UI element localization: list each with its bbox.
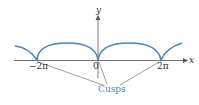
cycloid-diagram: x y −2π 0 2π Cusps <box>0 0 199 105</box>
cusps-label: Cusps <box>98 84 126 94</box>
x-axis-label: x <box>189 55 194 65</box>
cycloid-curve <box>15 43 182 60</box>
y-axis-arrow-icon <box>96 15 101 20</box>
tick-label-neg-2pi: −2π <box>29 61 48 71</box>
y-axis-label: y <box>95 5 102 15</box>
tick-label-2pi: 2π <box>157 61 169 71</box>
tick-label-zero: 0 <box>93 61 99 71</box>
x-axis-arrow-icon <box>183 58 188 63</box>
